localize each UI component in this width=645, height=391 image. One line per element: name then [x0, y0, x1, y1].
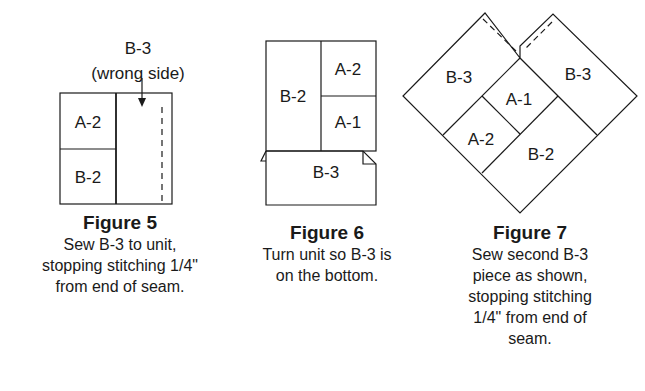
figure-5-callout-line2: (wrong side)	[91, 64, 185, 83]
piece-a2-label: A-2	[335, 60, 361, 79]
corner-fold-left-icon	[261, 151, 266, 161]
figure-5-description: Sew B-3 to unit, stopping stitching 1/4"…	[0, 234, 240, 297]
piece-a1-label: A-1	[335, 113, 361, 132]
figure-6-title: Figure 6	[237, 222, 417, 244]
figure-7-outline	[403, 13, 637, 213]
stitch-line-left	[483, 19, 518, 53]
piece-b3-left-label: B-3	[446, 68, 472, 87]
figure-5-title: Figure 5	[0, 212, 240, 234]
figure-5-caption: Figure 5 Sew B-3 to unit, stopping stitc…	[0, 212, 240, 297]
stitch-line-right	[524, 22, 552, 50]
piece-b3-right-label: B-3	[565, 65, 591, 84]
piece-b3-label: B-3	[313, 163, 339, 182]
figure-7-caption: Figure 7 Sew second B-3 piece as shown, …	[430, 222, 630, 349]
piece-a2-label: A-2	[75, 113, 101, 132]
figure-6-description: Turn unit so B-3 is on the bottom.	[237, 244, 417, 286]
figure-7-description: Sew second B-3 piece as shown, stopping …	[430, 244, 630, 349]
figure-6-caption: Figure 6 Turn unit so B-3 is on the bott…	[237, 222, 417, 286]
piece-a2-label: A-2	[468, 130, 494, 149]
arrow-down-icon	[138, 98, 146, 107]
piece-a1-label: A-1	[506, 90, 532, 109]
piece-b2-label: B-2	[75, 168, 101, 187]
figure-7-title: Figure 7	[430, 222, 630, 244]
figure-7-diagram	[403, 13, 637, 213]
figure-5-callout-line1: B-3	[125, 39, 151, 58]
piece-b2-label: B-2	[280, 87, 306, 106]
piece-b2-label: B-2	[528, 145, 554, 164]
